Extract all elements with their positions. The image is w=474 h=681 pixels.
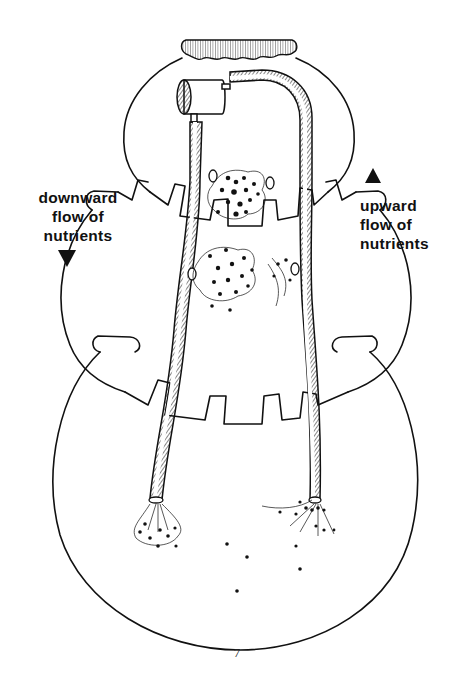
upward-label-line-2: flow of — [360, 215, 440, 234]
downward-tube — [149, 122, 202, 503]
cloth-cover — [182, 40, 297, 59]
pots-illustration — [0, 0, 474, 681]
page-number: 7 — [0, 645, 474, 661]
upward-flow-label: upward flow of nutrients — [360, 196, 440, 253]
down-arrow-icon — [58, 250, 76, 267]
downward-label-line-3: nutrients — [30, 226, 126, 245]
bottom-pot — [53, 352, 418, 650]
downward-flow-label: downward flow of nutrients — [30, 188, 126, 245]
upward-label-line-3: nutrients — [360, 234, 440, 253]
top-pot — [124, 58, 182, 192]
pump — [177, 80, 230, 122]
downward-label-line-1: downward — [30, 188, 126, 207]
downward-label-line-2: flow of — [30, 207, 126, 226]
diagram-page: downward flow of nutrients upward flow o… — [0, 0, 474, 681]
tube-outlets — [188, 170, 299, 280]
upward-label-line-1: upward — [360, 196, 440, 215]
up-arrow-icon — [365, 168, 381, 183]
upward-tube — [230, 70, 321, 503]
